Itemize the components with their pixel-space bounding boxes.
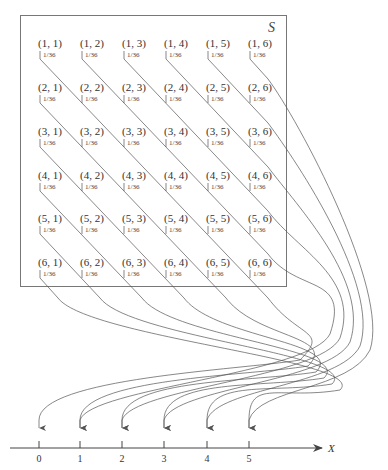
outcome-cell: (2, 4)1/36 — [164, 81, 188, 103]
tick-label: 3 — [162, 453, 167, 464]
outcome-pair: (1, 2) — [80, 37, 104, 50]
outcome-probability: 1/36 — [43, 183, 56, 191]
outcome-cell: (4, 3)1/36 — [122, 169, 146, 191]
axis-tick: 5 — [247, 441, 252, 464]
outcome-pair: (1, 6) — [248, 37, 272, 50]
outcome-cell: (5, 2)1/36 — [80, 212, 104, 234]
outcome-pair: (5, 6) — [248, 212, 272, 225]
outcome-probability: 1/36 — [253, 139, 266, 147]
outcome-probability: 1/36 — [169, 270, 182, 278]
outcome-cell: (6, 3)1/36 — [122, 256, 146, 278]
outcome-probability: 1/36 — [211, 95, 224, 103]
outcome-cell: (6, 2)1/36 — [80, 256, 104, 278]
x-axis: 012345 X — [10, 441, 336, 464]
outcome-pair: (3, 6) — [248, 125, 272, 138]
outcome-pair: (3, 3) — [122, 125, 146, 138]
outcome-probability: 1/36 — [211, 226, 224, 234]
outcome-cell: (3, 3)1/36 — [122, 125, 146, 147]
outcome-probability: 1/36 — [127, 139, 140, 147]
outcome-pair: (4, 3) — [122, 169, 146, 182]
mapping-curve — [39, 59, 312, 428]
axis-tick: 4 — [205, 441, 210, 464]
outcome-probability: 1/36 — [127, 183, 140, 191]
sample-space-label: S — [268, 20, 275, 35]
outcome-cell: (2, 3)1/36 — [122, 81, 146, 103]
outcome-pair: (2, 1) — [38, 81, 62, 94]
outcome-probability: 1/36 — [85, 226, 98, 234]
outcome-cell: (5, 1)1/36 — [38, 212, 62, 234]
outcome-pair: (1, 3) — [122, 37, 146, 50]
outcome-cell: (1, 6)1/36 — [248, 37, 272, 59]
outcome-cell: (6, 6)1/36 — [248, 256, 272, 278]
outcome-pair: (4, 5) — [206, 169, 230, 182]
outcome-probability: 1/36 — [253, 95, 266, 103]
tick-label: 5 — [247, 453, 252, 464]
outcome-pair: (3, 1) — [38, 125, 62, 138]
outcome-cell: (1, 3)1/36 — [122, 37, 146, 59]
outcome-cell: (6, 1)1/36 — [38, 256, 62, 278]
outcome-cell: (2, 6)1/36 — [248, 81, 272, 103]
outcome-cell: (3, 1)1/36 — [38, 125, 62, 147]
outcome-probability: 1/36 — [85, 51, 98, 59]
outcome-pair: (2, 4) — [164, 81, 188, 94]
outcome-cell: (3, 2)1/36 — [80, 125, 104, 147]
outcome-probability: 1/36 — [253, 51, 266, 59]
outcome-probability: 1/36 — [85, 183, 98, 191]
axis-tick: 0 — [37, 441, 42, 464]
outcome-pair: (4, 6) — [248, 169, 272, 182]
outcome-pair: (5, 4) — [164, 212, 188, 225]
sample-space-mapping-diagram: S (1, 1)1/36(1, 2)1/36(1, 3)1/36(1, 4)1/… — [0, 0, 388, 470]
outcome-probability: 1/36 — [211, 270, 224, 278]
outcome-cell: (4, 2)1/36 — [80, 169, 104, 191]
axis-tick: 1 — [78, 441, 83, 464]
outcome-probability: 1/36 — [43, 139, 56, 147]
outcome-cell: (5, 5)1/36 — [206, 212, 230, 234]
mapping-curve — [207, 59, 363, 428]
outcome-grid: (1, 1)1/36(1, 2)1/36(1, 3)1/36(1, 4)1/36… — [38, 37, 272, 278]
outcome-probability: 1/36 — [169, 51, 182, 59]
outcome-pair: (2, 2) — [80, 81, 104, 94]
sample-space-box — [21, 16, 287, 287]
outcome-probability: 1/36 — [253, 183, 266, 191]
outcome-pair: (6, 6) — [248, 256, 272, 269]
outcome-probability: 1/36 — [211, 139, 224, 147]
outcome-probability: 1/36 — [169, 139, 182, 147]
outcome-cell: (4, 6)1/36 — [248, 169, 272, 191]
outcome-cell: (1, 2)1/36 — [80, 37, 104, 59]
outcome-probability: 1/36 — [127, 95, 140, 103]
outcome-pair: (1, 1) — [38, 37, 62, 50]
outcome-probability: 1/36 — [43, 270, 56, 278]
axis-label: X — [327, 442, 336, 454]
outcome-cell: (2, 2)1/36 — [80, 81, 104, 103]
outcome-pair: (5, 1) — [38, 212, 62, 225]
outcome-cell: (5, 3)1/36 — [122, 212, 146, 234]
outcome-pair: (2, 3) — [122, 81, 146, 94]
outcome-cell: (6, 5)1/36 — [206, 256, 230, 278]
outcome-probability: 1/36 — [253, 270, 266, 278]
outcome-pair: (6, 1) — [38, 256, 62, 269]
mapping-curves — [39, 59, 373, 428]
outcome-probability: 1/36 — [43, 226, 56, 234]
outcome-pair: (6, 3) — [122, 256, 146, 269]
outcome-probability: 1/36 — [169, 95, 182, 103]
outcome-pair: (3, 2) — [80, 125, 104, 138]
outcome-pair: (6, 4) — [164, 256, 188, 269]
tick-label: 1 — [78, 453, 83, 464]
outcome-probability: 1/36 — [43, 95, 56, 103]
outcome-probability: 1/36 — [253, 226, 266, 234]
outcome-probability: 1/36 — [127, 51, 140, 59]
outcome-probability: 1/36 — [127, 270, 140, 278]
outcome-probability: 1/36 — [211, 183, 224, 191]
outcome-pair: (3, 5) — [206, 125, 230, 138]
outcome-pair: (5, 2) — [80, 212, 104, 225]
outcome-pair: (5, 5) — [206, 212, 230, 225]
outcome-cell: (2, 1)1/36 — [38, 81, 62, 103]
outcome-cell: (5, 6)1/36 — [248, 212, 272, 234]
outcome-pair: (4, 1) — [38, 169, 62, 182]
outcome-cell: (5, 4)1/36 — [164, 212, 188, 234]
axis-tick: 3 — [162, 441, 167, 464]
axis-tick: 2 — [120, 441, 125, 464]
outcome-pair: (1, 5) — [206, 37, 230, 50]
outcome-cell: (1, 5)1/36 — [206, 37, 230, 59]
outcome-cell: (3, 6)1/36 — [248, 125, 272, 147]
